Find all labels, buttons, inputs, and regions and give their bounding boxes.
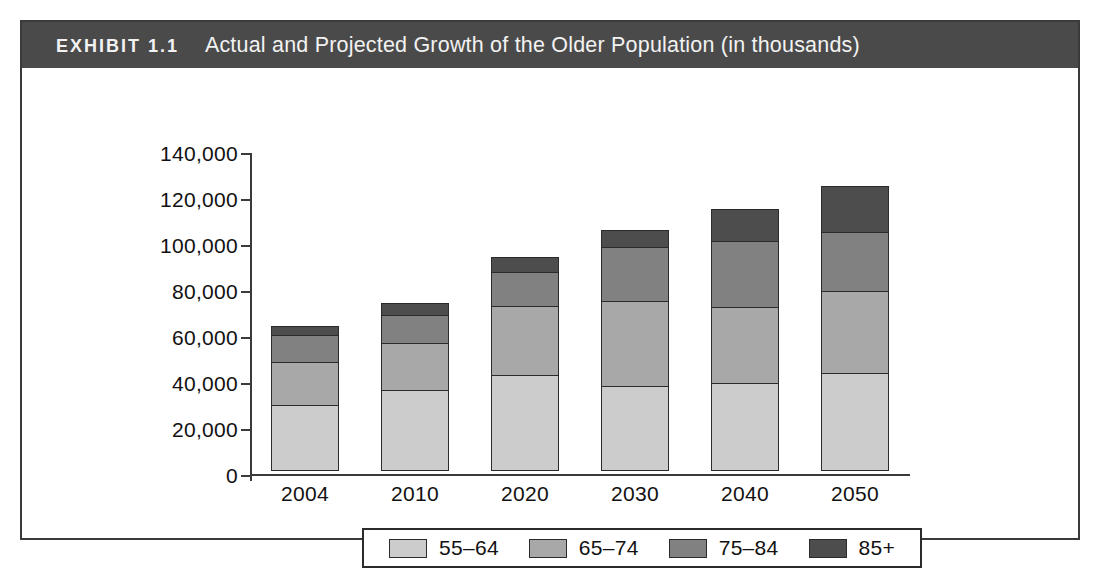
legend-swatch bbox=[389, 539, 427, 558]
bar-segment bbox=[601, 301, 669, 387]
y-axis-tick-label: 140,000 bbox=[88, 142, 238, 166]
bar-2030 bbox=[601, 230, 669, 476]
bar-segment bbox=[821, 232, 889, 292]
legend-swatch bbox=[809, 539, 847, 558]
bar-segment bbox=[821, 186, 889, 234]
bar-segment bbox=[491, 306, 559, 377]
bar-2040 bbox=[711, 209, 779, 476]
x-axis-tick-label: 2010 bbox=[355, 482, 475, 506]
exhibit-number-label: EXHIBIT 1.1 bbox=[56, 36, 179, 56]
chart-legend: 55–6465–7475–8485+ bbox=[362, 528, 922, 568]
bar-2004 bbox=[271, 326, 339, 476]
bar-segment bbox=[601, 386, 669, 472]
legend-swatch bbox=[529, 539, 567, 558]
bar-segment bbox=[491, 375, 559, 471]
bar-2010 bbox=[381, 303, 449, 476]
y-axis-tick-label: 40,000 bbox=[88, 372, 238, 396]
bar-segment bbox=[821, 291, 889, 374]
y-axis-tick-label: 20,000 bbox=[88, 418, 238, 442]
legend-swatch bbox=[669, 539, 707, 558]
bar-segment bbox=[271, 335, 339, 364]
legend-item: 55–64 bbox=[389, 536, 499, 560]
y-axis-labels: 140,000120,000100,00080,00060,00040,0002… bbox=[70, 68, 238, 540]
bar-segment bbox=[601, 230, 669, 248]
y-axis-tick-label: 80,000 bbox=[88, 280, 238, 304]
bar-2020 bbox=[491, 257, 559, 476]
legend-label: 65–74 bbox=[579, 536, 639, 560]
exhibit-header-band: EXHIBIT 1.1 Actual and Projected Growth … bbox=[22, 22, 1078, 68]
bar-segment bbox=[821, 373, 889, 471]
y-axis-tick-label: 60,000 bbox=[88, 326, 238, 350]
bar-segment bbox=[711, 241, 779, 308]
bar-segment bbox=[711, 209, 779, 243]
bar-segment bbox=[491, 272, 559, 308]
y-axis-tick-label: 0 bbox=[88, 464, 238, 488]
bar-segment bbox=[271, 405, 339, 472]
legend-item: 85+ bbox=[809, 536, 896, 560]
y-axis-tick-label: 120,000 bbox=[88, 188, 238, 212]
chart-plot-area: 140,000120,000100,00080,00060,00040,0002… bbox=[22, 68, 1078, 540]
bar-segment bbox=[381, 390, 449, 472]
y-axis-tick-label: 100,000 bbox=[88, 234, 238, 258]
x-axis-tick-label: 2040 bbox=[685, 482, 805, 506]
x-axis-tick-label: 2004 bbox=[245, 482, 365, 506]
bar-2050 bbox=[821, 186, 889, 476]
bar-segment bbox=[271, 362, 339, 406]
legend-label: 75–84 bbox=[719, 536, 779, 560]
bar-segment bbox=[711, 307, 779, 384]
legend-label: 55–64 bbox=[439, 536, 499, 560]
x-axis-tick-label: 2020 bbox=[465, 482, 585, 506]
bar-group bbox=[250, 154, 910, 476]
legend-label: 85+ bbox=[859, 536, 896, 560]
legend-item: 75–84 bbox=[669, 536, 779, 560]
exhibit-panel: EXHIBIT 1.1 Actual and Projected Growth … bbox=[20, 20, 1080, 540]
bar-segment bbox=[601, 247, 669, 303]
exhibit-header-text: EXHIBIT 1.1 Actual and Projected Growth … bbox=[22, 33, 860, 58]
exhibit-title: Actual and Projected Growth of the Older… bbox=[205, 33, 860, 57]
bar-segment bbox=[381, 315, 449, 345]
bar-segment bbox=[381, 343, 449, 391]
x-axis-tick-label: 2030 bbox=[575, 482, 695, 506]
legend-item: 65–74 bbox=[529, 536, 639, 560]
bar-segment bbox=[711, 383, 779, 472]
x-axis-tick-label: 2050 bbox=[795, 482, 915, 506]
